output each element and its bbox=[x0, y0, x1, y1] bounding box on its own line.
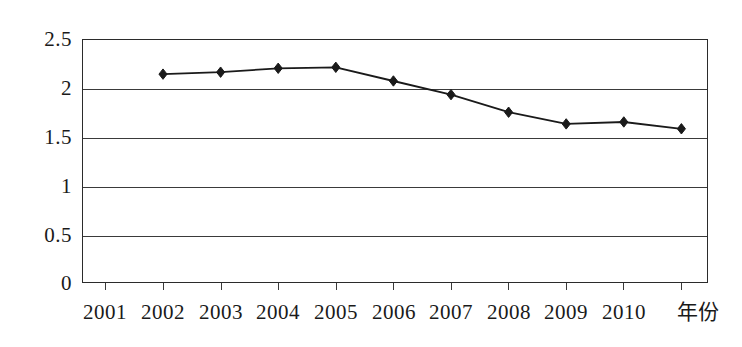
x-axis-title: 年份 bbox=[677, 299, 719, 325]
x-tick-label-2002: 2002 bbox=[141, 299, 185, 325]
x-tick-2004 bbox=[278, 283, 279, 290]
x-tick-2001 bbox=[105, 283, 106, 290]
x-tick-label-2006: 2006 bbox=[372, 299, 416, 325]
x-tick-2007 bbox=[451, 283, 452, 290]
x-tick-label-2005: 2005 bbox=[314, 299, 358, 325]
gridline-0_5 bbox=[83, 236, 707, 237]
y-tick-label-2_5: 2.5 bbox=[44, 29, 72, 50]
x-tick-2006 bbox=[393, 283, 394, 290]
x-tick-label-2004: 2004 bbox=[256, 299, 300, 325]
gridline-1_5 bbox=[83, 138, 707, 139]
x-tick-label-2007: 2007 bbox=[429, 299, 473, 325]
x-tick-label-2010: 2010 bbox=[602, 299, 646, 325]
x-tick-2011 bbox=[681, 283, 682, 290]
y-tick-label-0: 0 bbox=[61, 273, 72, 294]
x-axis: 2001 2002 2003 2004 2005 2006 2007 2008 … bbox=[0, 299, 742, 333]
y-tick-label-2: 2 bbox=[61, 78, 72, 99]
x-tick-2002 bbox=[163, 283, 164, 290]
line-chart-figure: 2.5 2 1.5 1 0.5 0 2001 2002 2003 2004 20… bbox=[0, 0, 742, 347]
plot-area bbox=[82, 39, 708, 283]
x-tick-2005 bbox=[336, 283, 337, 290]
x-tick-label-2008: 2008 bbox=[487, 299, 531, 325]
x-tick-2008 bbox=[508, 283, 509, 290]
x-tick-2009 bbox=[566, 283, 567, 290]
y-tick-label-1_5: 1.5 bbox=[44, 127, 72, 148]
y-tick-label-0_5: 0.5 bbox=[44, 225, 72, 246]
x-tick-2003 bbox=[221, 283, 222, 290]
y-axis: 2.5 2 1.5 1 0.5 0 bbox=[0, 0, 82, 347]
x-tick-2010 bbox=[623, 283, 624, 290]
gridline-2 bbox=[83, 89, 707, 90]
y-tick-label-1: 1 bbox=[61, 176, 72, 197]
x-tick-label-2003: 2003 bbox=[199, 299, 243, 325]
x-tick-label-2001: 2001 bbox=[83, 299, 127, 325]
x-axis-ticks bbox=[82, 283, 708, 291]
gridline-1 bbox=[83, 187, 707, 188]
x-tick-label-2009: 2009 bbox=[544, 299, 588, 325]
